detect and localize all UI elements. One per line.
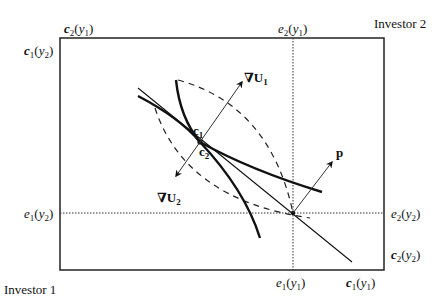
label-c2-y2-right: c2(y2) [391,248,420,261]
gradient-u2-arrow [176,142,200,176]
label-c2-point: c2 [199,145,209,158]
label-e2-y2-right: e2(y2) [391,207,420,220]
label-price-vector: p [336,146,343,159]
price-vector-arrow [293,162,332,213]
dashed-indifference-curve-upper [178,80,293,213]
label-e1-y2-left: e1(y2) [24,207,53,220]
label-gradient-u2: ∇U2 [157,191,181,204]
edgeworth-box-diagram [0,0,444,305]
label-c2-y1-top: c2(y1) [64,22,93,35]
investor1-label: Investor 1 [4,283,56,296]
investor2-label: Investor 2 [374,17,426,30]
label-e1-y1-bottom: e1(y1) [276,276,305,289]
label-c1-point: c1 [193,124,203,137]
label-c1-y1-bottom: c1(y1) [346,276,375,289]
label-c1-y2-left: c1(y2) [24,44,53,57]
label-gradient-u1: ∇U1 [244,71,268,84]
gradient-u1-arrow [200,82,242,142]
label-e2-y1-top: e2(y1) [278,22,307,35]
